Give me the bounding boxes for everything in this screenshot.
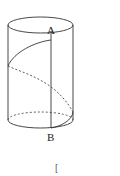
helix-front-upper <box>8 40 51 66</box>
cylinder-diagram <box>0 0 120 176</box>
label-b: B <box>47 132 54 143</box>
footer-bracket: [ <box>55 163 58 173</box>
helix-back <box>8 66 73 112</box>
bottom-ellipse-back <box>8 112 73 120</box>
top-ellipse <box>8 17 73 33</box>
label-a: A <box>47 25 55 36</box>
